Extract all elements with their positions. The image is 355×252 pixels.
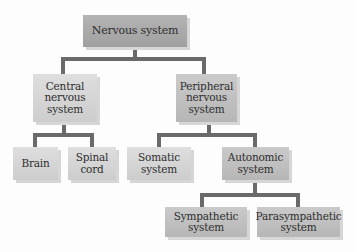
node-peripheral-nervous-system: Peripheral nervous system <box>176 74 237 122</box>
connector-to-sympathetic <box>200 193 204 207</box>
node-label-line: system <box>180 104 234 116</box>
connector-to-peripheral <box>202 57 206 74</box>
node-spinal-cord: Spinal cord <box>68 147 116 180</box>
node-label-line: system <box>138 164 180 176</box>
connector-to-autonomic <box>253 133 257 147</box>
connector-central-bar <box>33 133 94 137</box>
connector-to-brain <box>33 133 37 147</box>
node-label: Nervous system <box>92 25 179 37</box>
connector-to-parasympathetic <box>296 193 300 207</box>
node-label-line: system <box>45 104 86 116</box>
node-autonomic-system: Autonomic system <box>222 147 289 180</box>
node-parasympathetic-system: Parasympathetic system <box>257 207 340 237</box>
connector-autonomic-bar <box>200 193 300 197</box>
node-brain: Brain <box>13 147 58 180</box>
node-somatic-system: Somatic system <box>127 147 191 180</box>
node-label-line: system <box>255 222 341 234</box>
node-sympathetic-system: Sympathetic system <box>165 207 247 237</box>
nervous-system-diagram: Nervous system Central nervous system Pe… <box>0 0 355 252</box>
node-label-line: system <box>174 222 239 234</box>
node-label-line: Brain <box>21 158 49 170</box>
connector-to-central <box>61 57 65 74</box>
connector-root-bar <box>61 57 206 61</box>
node-label-line: Spinal <box>76 152 108 164</box>
node-central-nervous-system: Central nervous system <box>33 74 97 122</box>
connector-to-somatic <box>157 133 161 147</box>
node-label-line: Autonomic <box>228 152 283 164</box>
node-label-line: Somatic <box>138 152 180 164</box>
node-label-line: system <box>228 164 283 176</box>
node-nervous-system: Nervous system <box>83 15 187 47</box>
connector-to-spinal-cord <box>90 133 94 147</box>
node-label-line: cord <box>76 164 108 176</box>
connector-peripheral-bar <box>157 133 257 137</box>
